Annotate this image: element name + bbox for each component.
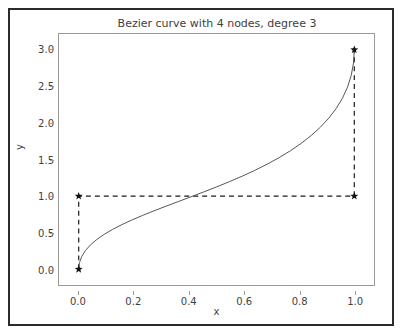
bezier-curve-path: [79, 50, 355, 270]
figure-canvas: Bezier curve with 4 nodes, degree 3 0.00…: [0, 0, 402, 334]
y-tick-mark: [50, 233, 54, 234]
y-tick-mark: [50, 86, 54, 87]
x-tick-mark: [78, 291, 79, 295]
plot-svg: [59, 34, 374, 285]
control-polygon-path: [79, 50, 355, 270]
x-tick-mark: [355, 291, 356, 295]
control-node-marker: [75, 265, 83, 273]
series-layer: [75, 46, 359, 273]
x-tick-mark: [300, 291, 301, 295]
chart-title: Bezier curve with 4 nodes, degree 3: [58, 17, 376, 30]
y-tick-mark: [50, 270, 54, 271]
x-tick-mark: [244, 291, 245, 295]
y-tick-mark: [50, 160, 54, 161]
x-axis-tick-labels: 0.00.20.40.60.81.0: [58, 291, 375, 307]
x-tick-mark: [189, 291, 190, 295]
y-tick-mark: [50, 123, 54, 124]
y-tick-mark: [50, 49, 54, 50]
y-tick-mark: [50, 196, 54, 197]
y-axis-label: y: [14, 144, 25, 150]
x-axis-label: x: [58, 306, 375, 317]
x-tick-mark: [133, 291, 134, 295]
control-node-marker: [350, 192, 358, 200]
plot-axes-area: [58, 33, 375, 286]
y-axis-tick-labels: 0.00.51.01.52.02.53.0: [20, 33, 54, 286]
control-node-marker: [75, 192, 83, 200]
